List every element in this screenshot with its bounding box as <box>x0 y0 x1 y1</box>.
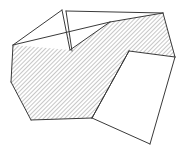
polygon-figure <box>0 0 184 152</box>
figure-canvas: Hatched polygonal line-drawing <box>0 0 184 152</box>
